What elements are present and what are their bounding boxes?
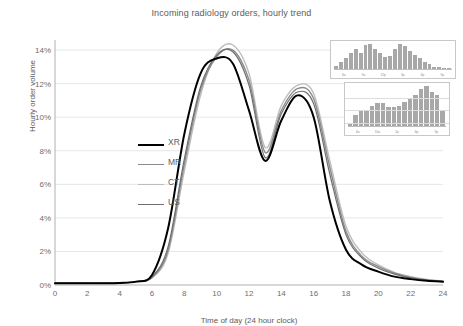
x-tick-label: 10: [212, 289, 221, 298]
legend-swatch-ct: [138, 184, 164, 185]
x-tick-label: 14: [277, 289, 286, 298]
legend-swatch-xr: [138, 144, 164, 146]
inset-bottom-gridline: [345, 123, 449, 124]
inset-top-tick-label: 12p: [380, 73, 385, 77]
legend-item-us[interactable]: US: [88, 195, 164, 215]
y-tick-label: 10%: [35, 113, 51, 122]
chart-title: Incoming radiology orders, hourly trend: [0, 8, 463, 18]
inset-top-tick-label: 9a: [362, 73, 366, 77]
inset-bottom-gridline: [345, 98, 449, 99]
y-tick-label: 14%: [35, 46, 51, 55]
inset-top-ticks: 6a9a12p3p6p9p: [334, 69, 452, 77]
legend-swatch-us: [138, 204, 164, 205]
y-tick-label: 6%: [39, 180, 51, 189]
legend-swatch-mr: [138, 164, 164, 165]
inset-bottom-bars: [348, 86, 446, 126]
inset-bottom-tick-label: 6p: [415, 130, 419, 134]
y-tick-label: 0%: [39, 281, 51, 290]
x-tick-label: 2: [85, 289, 89, 298]
x-tick-label: 6: [150, 289, 154, 298]
inset-top-tick-label: 6a: [342, 73, 346, 77]
chart-legend: XR MR CT US: [88, 135, 164, 215]
y-tick-label: 4%: [39, 213, 51, 222]
y-tick-label: 2%: [39, 247, 51, 256]
y-tick-label: 12%: [35, 79, 51, 88]
y-tick-label: 8%: [39, 146, 51, 155]
inset-bottom-bar: [440, 110, 445, 126]
x-tick-label: 16: [309, 289, 318, 298]
x-tick-label: 18: [342, 289, 351, 298]
inset-bottom-gridline: [345, 110, 449, 111]
inset-top-tick-label: 9p: [440, 73, 444, 77]
legend-label-mr: MR: [168, 157, 181, 167]
inset-bottom-tick-label: 9p: [434, 130, 438, 134]
inset-histogram-top[interactable]: 6a9a12p3p6p9p: [330, 40, 456, 79]
x-tick-label: 12: [245, 289, 254, 298]
legend-label-us: US: [168, 197, 180, 207]
inset-top-tick-label: 6p: [421, 73, 425, 77]
inset-histogram-bottom[interactable]: 6a10a2p6p9p: [344, 82, 450, 136]
x-tick-label: 20: [374, 289, 383, 298]
legend-label-xr: XR: [168, 137, 180, 147]
x-tick-label: 0: [53, 289, 57, 298]
legend-item-xr[interactable]: XR: [88, 135, 164, 155]
x-tick-label: 24: [439, 289, 448, 298]
chart-figure: Incoming radiology orders, hourly trend …: [0, 0, 463, 326]
inset-top-tick-label: 3p: [401, 73, 405, 77]
x-tick-label: 4: [117, 289, 121, 298]
inset-bottom-tick-label: 10a: [375, 130, 380, 134]
inset-bottom-ticks: 6a10a2p6p9p: [348, 126, 446, 134]
x-axis-label: Time of day (24 hour clock): [55, 316, 443, 325]
legend-label-ct: CT: [168, 177, 179, 187]
inset-bottom-tick-label: 6a: [356, 130, 360, 134]
legend-item-ct[interactable]: CT: [88, 175, 164, 195]
inset-bottom-tick-label: 2p: [395, 130, 399, 134]
x-tick-label: 22: [406, 289, 415, 298]
inset-top-bars: [334, 44, 452, 69]
legend-item-mr[interactable]: MR: [88, 155, 164, 175]
x-tick-label: 8: [182, 289, 186, 298]
